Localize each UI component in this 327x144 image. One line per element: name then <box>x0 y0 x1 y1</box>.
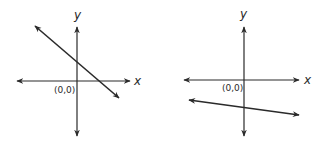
diagram-canvas: y x (0,0) y x (0,0) <box>0 0 327 144</box>
left-origin-label: (0,0) <box>54 85 75 95</box>
right-graph: y x (0,0) <box>184 7 312 136</box>
right-x-label: x <box>303 73 312 87</box>
right-y-label: y <box>239 7 248 21</box>
left-y-label: y <box>73 8 82 22</box>
right-origin-label: (0,0) <box>222 83 243 93</box>
left-x-label: x <box>133 74 142 88</box>
left-graph: y x (0,0) <box>17 8 142 136</box>
